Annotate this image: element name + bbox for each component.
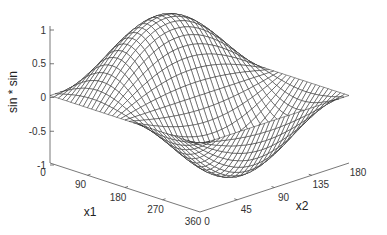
- x2-tick: [234, 199, 237, 200]
- z-tick-label: 0: [40, 92, 46, 103]
- x1-axis-label: x1: [84, 205, 97, 219]
- x1-tick-label: 270: [147, 204, 164, 215]
- x2-tick: [272, 187, 275, 188]
- x1-tick: [88, 174, 91, 175]
- z-axis-label: sin * sin: [6, 71, 20, 113]
- x2-tick-label: 180: [350, 167, 367, 178]
- x1-tick-label: 90: [75, 179, 87, 190]
- x1-tick: [163, 199, 166, 200]
- surface-mesh: [50, 14, 349, 178]
- x2-tick-label: 90: [278, 192, 290, 203]
- x2-axis-label: x2: [296, 199, 309, 213]
- x2-tick-label: 45: [241, 204, 253, 215]
- x2-tick-label: 135: [312, 179, 329, 190]
- x1-tick-label: 360: [185, 216, 202, 227]
- z-tick-label: 0.5: [32, 58, 46, 69]
- x1-tick: [125, 187, 128, 188]
- x2-tick: [309, 174, 312, 175]
- surface-plot: 10.50-0.5-109018027036004590135180 sin *…: [0, 0, 387, 235]
- x1-tick-label: 0: [40, 167, 46, 178]
- z-tick-label: -0.5: [29, 126, 47, 137]
- z-tick-label: 1: [40, 25, 46, 36]
- x2-tick-label: 0: [204, 216, 210, 227]
- x1-tick-label: 180: [110, 192, 127, 203]
